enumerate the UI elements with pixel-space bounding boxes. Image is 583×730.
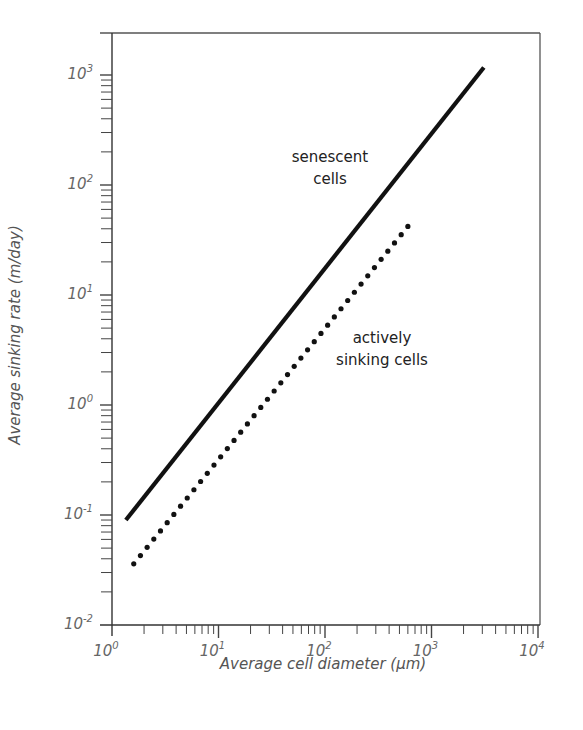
y-tick-label: 10-2: [64, 613, 93, 633]
series-layer: [126, 67, 484, 566]
y-tick-label: 10-1: [64, 503, 93, 523]
y-tick-label: 102: [68, 173, 93, 193]
y-axis-tick-labels: 10-210-1100101102103: [64, 63, 93, 633]
x-axis-title: Average cell diameter (µm): [219, 655, 426, 673]
annotation-active-line2: sinking cells: [336, 351, 428, 369]
x-axis-ticks: [144, 625, 538, 638]
sinking-rate-chart: 100101102103104 10-210-1100101102103 sen…: [0, 0, 583, 730]
annotation-senescent-line2: cells: [313, 170, 347, 188]
x-tick-label: 104: [519, 640, 544, 660]
y-axis-title: Average sinking rate (m/day): [6, 225, 24, 446]
series-actively-sinking-cells: [131, 224, 410, 567]
annotation-senescent-line1: senescent: [292, 148, 369, 166]
y-tick-label: 103: [68, 63, 93, 83]
y-axis-ticks: [100, 75, 112, 592]
y-tick-label: 101: [68, 283, 93, 303]
x-tick-label: 100: [93, 640, 118, 660]
y-tick-label: 100: [68, 393, 93, 413]
annotation-active-line1: actively: [353, 329, 412, 347]
series-senescent-cells: [126, 67, 484, 520]
